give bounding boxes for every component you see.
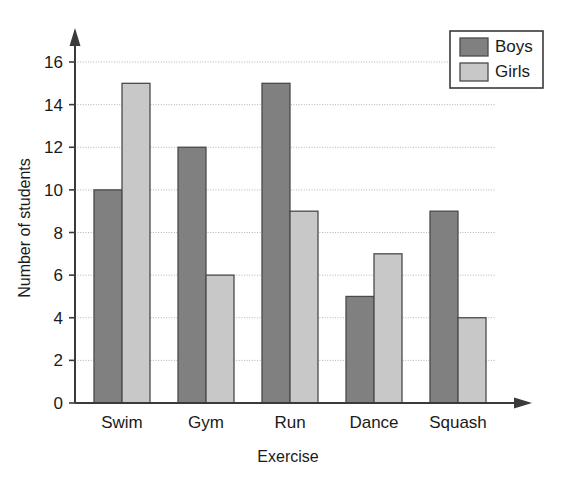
legend-label-boys: Boys	[495, 37, 533, 56]
x-category-label-run: Run	[274, 413, 305, 432]
bar-girls-swim	[122, 83, 150, 403]
bar-chart-figure: 0246810121416 SwimGymRunDanceSquash Exer…	[0, 0, 567, 482]
y-tick-label-4: 4	[54, 309, 63, 328]
x-axis-arrowhead	[514, 398, 532, 409]
legend[interactable]: Boys Girls	[450, 31, 543, 88]
bar-boys-squash	[430, 211, 458, 403]
chart-canvas: 0246810121416 SwimGymRunDanceSquash Exer…	[0, 0, 567, 482]
x-axis-title: Exercise	[257, 448, 318, 465]
legend-swatch-girls	[460, 63, 488, 81]
bar-boys-dance	[346, 296, 374, 403]
y-axis-arrowhead	[70, 28, 81, 46]
bar-boys-swim	[94, 190, 122, 403]
y-tick-label-12: 12	[44, 138, 63, 157]
y-tick-label-6: 6	[54, 266, 63, 285]
bar-boys-run	[262, 83, 290, 403]
bar-girls-run	[290, 211, 318, 403]
x-category-label-gym: Gym	[188, 413, 224, 432]
x-category-label-dance: Dance	[349, 413, 398, 432]
y-tick-label-2: 2	[54, 351, 63, 370]
bar-girls-squash	[458, 318, 486, 403]
y-axis-tick-labels: 0246810121416	[44, 53, 63, 413]
legend-label-girls: Girls	[495, 62, 530, 81]
bar-boys-gym	[178, 147, 206, 403]
y-tick-label-0: 0	[54, 394, 63, 413]
bar-girls-gym	[206, 275, 234, 403]
x-axis-category-labels: SwimGymRunDanceSquash	[101, 413, 487, 432]
x-category-label-swim: Swim	[101, 413, 143, 432]
y-tick-label-14: 14	[44, 96, 63, 115]
bar-series-group	[94, 83, 486, 403]
legend-swatch-boys	[460, 38, 488, 56]
y-tick-label-8: 8	[54, 224, 63, 243]
x-category-label-squash: Squash	[429, 413, 487, 432]
y-tick-label-10: 10	[44, 181, 63, 200]
bar-girls-dance	[374, 254, 402, 403]
y-axis-title: Number of students	[16, 158, 33, 298]
y-tick-label-16: 16	[44, 53, 63, 72]
